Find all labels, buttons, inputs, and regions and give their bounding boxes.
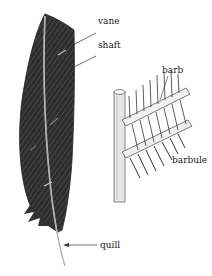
shaft-leader-line bbox=[72, 56, 96, 68]
vane-leader-line bbox=[71, 33, 96, 46]
label-vane: vane bbox=[98, 17, 120, 26]
label-barb: barb bbox=[162, 66, 183, 75]
label-shaft: shaft bbox=[98, 41, 121, 50]
feather-diagram: vane shaft barb barbule quill bbox=[0, 0, 212, 276]
label-quill: quill bbox=[100, 241, 120, 250]
feather-vane bbox=[20, 14, 75, 232]
barb-detail-illustration bbox=[114, 70, 192, 202]
quill-arrow bbox=[63, 243, 97, 247]
label-barbule: barbule bbox=[172, 156, 207, 165]
